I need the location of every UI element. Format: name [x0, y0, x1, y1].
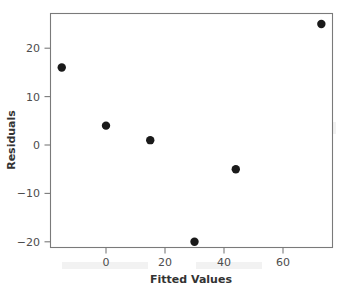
residual-plot-figure: 20 10 0 −10 −20 0 20 40 60 Fitted Values… — [0, 0, 345, 288]
y-axis-tick-labels: 20 10 0 −10 −20 — [17, 42, 40, 249]
y-tick-label-minus-20: −20 — [17, 236, 40, 249]
y-axis-ticks — [45, 48, 51, 242]
data-point — [317, 20, 325, 28]
y-tick-label-20: 20 — [26, 42, 40, 55]
y-tick-label-0: 0 — [33, 139, 40, 152]
x-tick-label-40: 40 — [217, 256, 231, 269]
x-axis-ticks — [106, 248, 283, 254]
scatter-plot-canvas: 20 10 0 −10 −20 0 20 40 60 Fitted Values… — [0, 0, 345, 288]
x-axis-title: Fitted Values — [150, 273, 232, 286]
x-tick-label-0: 0 — [103, 256, 110, 269]
data-point — [58, 63, 66, 71]
data-point — [146, 136, 154, 144]
data-point — [102, 121, 110, 129]
x-tick-label-60: 60 — [276, 256, 290, 269]
x-tick-label-20: 20 — [158, 256, 172, 269]
y-tick-label-10: 10 — [26, 91, 40, 104]
plot-frame — [51, 14, 333, 248]
data-point — [190, 238, 198, 246]
y-tick-label-minus-10: −10 — [17, 187, 40, 200]
data-point — [232, 165, 240, 173]
y-axis-title: Residuals — [5, 110, 18, 170]
